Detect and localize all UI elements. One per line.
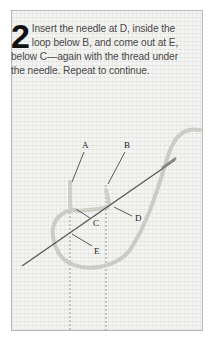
- thread-loop: [53, 129, 200, 267]
- leader-e: [72, 234, 92, 246]
- leader-b: [108, 152, 125, 184]
- label-d: D: [135, 213, 142, 223]
- label-a: A: [82, 140, 89, 150]
- label-e: E: [94, 246, 100, 256]
- label-b: B: [124, 140, 130, 150]
- leader-a: [72, 152, 84, 182]
- stitch-illustration: A B C D E: [0, 0, 214, 347]
- leader-d: [114, 207, 132, 216]
- thread-segment-top: [70, 182, 109, 211]
- label-c: C: [93, 218, 99, 228]
